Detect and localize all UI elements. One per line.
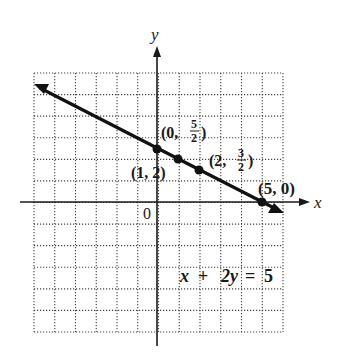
equation-part: + — [198, 266, 208, 286]
point-0-5-2 — [153, 145, 162, 154]
point-2-3-2 — [195, 166, 204, 175]
label-text: 2 — [238, 160, 244, 174]
equation-part: = — [245, 266, 255, 286]
label-point-2-3-2: (2, 3 2 ) — [209, 146, 253, 174]
x-axis-label: x — [313, 193, 322, 212]
y-axis-label: y — [149, 25, 159, 44]
equation-part: x — [179, 266, 189, 286]
label-text: 3 — [238, 146, 244, 160]
label-text: 2 — [191, 131, 197, 145]
label-point-1-2: (1, 2) — [131, 164, 166, 182]
equation-part: 2y — [220, 266, 239, 286]
origin-label: 0 — [143, 205, 151, 222]
point-5-0 — [258, 198, 267, 207]
label-text: (0, — [161, 124, 178, 142]
coordinate-plane: x y 0 (0, 5 2 ) (1, 2) (2, 3 2 ) (5, 0) … — [0, 0, 351, 357]
label-text: (2, — [209, 152, 226, 170]
label-text: 5 — [191, 117, 197, 131]
label-text: ) — [201, 124, 206, 142]
x-axis-arrow-icon — [299, 198, 310, 206]
point-1-2 — [174, 155, 183, 164]
equation-part: 5 — [264, 266, 273, 286]
label-point-5-0: (5, 0) — [258, 179, 295, 198]
y-axis-arrow-icon — [153, 46, 161, 57]
label-text: ) — [248, 152, 253, 170]
equation-label: x + 2y = 5 — [179, 266, 273, 286]
graph-figure: x y 0 (0, 5 2 ) (1, 2) (2, 3 2 ) (5, 0) … — [0, 0, 351, 357]
